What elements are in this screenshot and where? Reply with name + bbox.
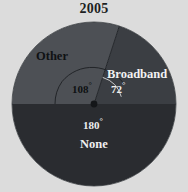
pie-chart-svg: [0, 0, 188, 192]
angle-label-other: 108°: [72, 84, 92, 95]
slice-label-other: Other: [36, 50, 68, 63]
angle-value-other: 108: [72, 83, 89, 95]
pie-center-dot: [91, 101, 98, 108]
degree-symbol-broadband: °: [122, 80, 125, 90]
pie-chart-figure: 2005 Other Broadband None 108° 72°: [0, 0, 188, 192]
degree-symbol-other: °: [89, 80, 92, 90]
angle-value-none: 180: [83, 119, 100, 131]
angle-value-broadband: 72: [111, 83, 122, 95]
degree-symbol-none: °: [100, 116, 103, 126]
angle-label-broadband: 72°: [111, 84, 125, 95]
slice-label-broadband: Broadband: [107, 68, 167, 81]
slice-label-none: None: [80, 138, 108, 151]
angle-label-none: 180°: [83, 120, 103, 131]
